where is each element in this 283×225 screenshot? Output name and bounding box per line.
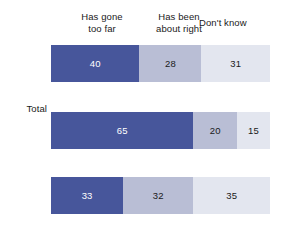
bar-track: 40 28 31 [51,45,270,82]
bar-track: 65 20 15 [51,112,270,149]
bar-segment-dont-know: 31 [201,45,270,82]
row-label-total: Total [6,103,47,114]
column-header-dont-know: Don't know [199,17,279,29]
bar-segment-has-been-about-right: 28 [139,45,201,82]
bar-segment-has-been-about-right: 20 [193,112,237,149]
stacked-bar-chart: Has gone too far Has been about right Do… [0,0,283,225]
bar-segment-dont-know: 35 [193,177,270,214]
bar-segment-has-gone-too-far: 33 [51,177,123,214]
bar-segment-has-gone-too-far: 40 [51,45,139,82]
bar-track: 33 32 35 [51,177,270,214]
bar-segment-has-gone-too-far: 65 [51,112,193,149]
bar-segment-dont-know: 15 [237,112,270,149]
column-header-has-gone-too-far: Has gone too far [61,11,143,34]
bar-segment-has-been-about-right: 32 [123,177,193,214]
